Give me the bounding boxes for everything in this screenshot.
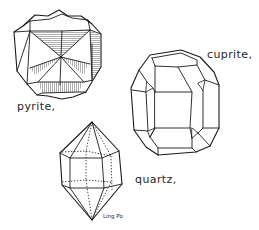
crystal-illustration: [0, 0, 259, 230]
artist-signature: Ling Po: [103, 213, 123, 219]
pyrite-label: pyrite,: [17, 100, 55, 113]
quartz-crystal: [60, 122, 122, 220]
cuprite-crystal: [131, 50, 219, 155]
cuprite-label: cuprite,: [207, 48, 252, 61]
pyrite-crystal: [14, 10, 101, 99]
quartz-label: quartz,: [135, 173, 177, 186]
